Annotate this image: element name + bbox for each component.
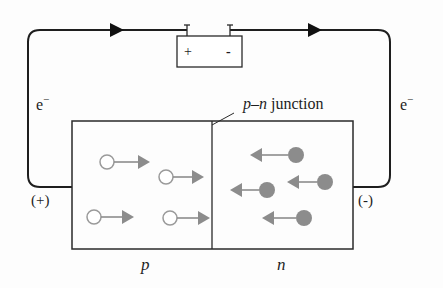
electrons-group [230, 147, 333, 226]
arrow-right-icon [138, 155, 150, 169]
hole-carrier [163, 211, 210, 225]
arrow-right-icon [122, 210, 134, 224]
p-region-label: p [140, 255, 150, 274]
positive-terminal-label: (+) [31, 192, 49, 209]
electron-dot-icon [259, 182, 275, 198]
battery-plus-label: + [184, 44, 192, 59]
hole-circle-icon [159, 170, 173, 184]
hole-carrier [159, 170, 204, 184]
wire-arrow-left-icon [110, 23, 124, 37]
junction-leader-line [212, 113, 234, 125]
electron-carrier [262, 210, 312, 226]
holes-group [87, 155, 210, 225]
battery-minus-label: - [226, 44, 231, 59]
electron-dot-icon [317, 174, 333, 190]
pn-junction-diagram: + - e− e− (+) (-) p–n junction p n [0, 0, 443, 288]
arrow-left-icon [287, 175, 299, 189]
n-region-label: n [277, 255, 286, 274]
hole-circle-icon [87, 210, 101, 224]
negative-terminal-label: (-) [358, 192, 373, 209]
hole-circle-icon [163, 211, 177, 225]
junction-label: p–n junction [242, 95, 323, 113]
electron-carrier [250, 147, 304, 163]
right-electron-label: e− [400, 93, 413, 113]
left-electron-label: e− [36, 93, 49, 113]
arrow-left-icon [262, 211, 274, 225]
wire-arrow-right-icon [308, 23, 322, 37]
electron-dot-icon [288, 147, 304, 163]
electron-carrier [287, 174, 333, 190]
hole-carrier [100, 155, 150, 169]
hole-carrier [87, 210, 134, 224]
hole-circle-icon [100, 155, 114, 169]
battery: + - [177, 25, 242, 67]
arrow-right-icon [192, 170, 204, 184]
arrow-left-icon [250, 148, 262, 162]
arrow-left-icon [230, 183, 242, 197]
arrow-right-icon [198, 211, 210, 225]
electron-dot-icon [296, 210, 312, 226]
electron-carrier [230, 182, 275, 198]
